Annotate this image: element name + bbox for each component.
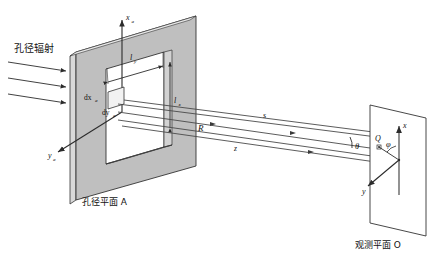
ray-R-label: R — [197, 123, 204, 133]
angle-theta: θ — [350, 137, 359, 151]
figure-canvas: x a y a l y l x dx a dy a — [0, 0, 434, 265]
point-Q-label: Q — [375, 134, 381, 143]
aperture-y-axis-label: y — [47, 151, 52, 160]
aperture-radiation-diagram: x a y a l y l x dx a dy a — [0, 0, 434, 265]
aperture-x-axis-label: x — [125, 13, 130, 22]
observation-x-axis-label: x — [402, 121, 407, 130]
element-dx-label: dx — [84, 93, 92, 102]
angle-phi-label: φ — [386, 139, 391, 149]
axis-z-label: z — [233, 144, 237, 153]
observation-plane — [370, 105, 426, 236]
observation-plane-caption: 观测平面 O — [355, 240, 401, 250]
angle-theta-label: θ — [355, 141, 359, 151]
aperture-plane-caption: 孔径平面 A — [82, 196, 128, 207]
aperture-x-axis-sub: a — [132, 19, 135, 24]
ray-s-label: s — [263, 111, 266, 120]
observation-y-axis-label: y — [361, 187, 366, 196]
incident-wave-arrows — [8, 62, 66, 103]
element-dy-label: dy — [102, 108, 110, 117]
incident-radiation-label: 孔径辐射 — [14, 42, 54, 54]
aperture-y-axis-sub: a — [53, 157, 56, 162]
